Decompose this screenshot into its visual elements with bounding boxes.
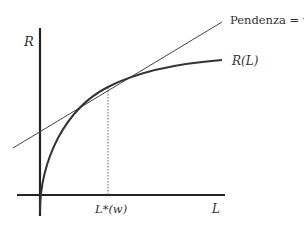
y-axis-label: R [23,34,34,49]
production-diagram: R L R(L) Pendenza = w L*(w) [0,0,304,231]
revenue-curve [40,60,222,212]
tangent-line [13,22,222,148]
x-axis-label: L [211,202,220,216]
tangent-label: Pendenza = w [230,13,304,27]
tangent-point-label: L*(w) [94,202,127,216]
curve-label: R(L) [231,54,259,68]
